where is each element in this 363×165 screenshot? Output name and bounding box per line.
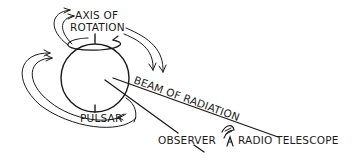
pulsar-diagram: AXIS OF ROTATION BEAM OF RADIATION PULSA… [0, 0, 363, 165]
label-radio-telescope: RADIO TELESCOPE [238, 134, 339, 146]
left-orbit-inner [32, 58, 126, 120]
rotation-arrow-icon [113, 36, 119, 42]
diagram-canvas: AXIS OF ROTATION BEAM OF RADIATION PULSA… [0, 0, 363, 165]
label-pulsar: PULSAR [80, 112, 122, 124]
beam-line-tail [194, 145, 204, 152]
pulsar-sphere [61, 44, 129, 112]
label-observer: OBSERVER [158, 134, 216, 146]
upper-right-arrow-inner [124, 34, 153, 70]
label-axis-line2: ROTATION [70, 21, 125, 33]
upper-right-arrow-outer [126, 28, 163, 72]
label-beam: BEAM OF RADIATION [132, 74, 241, 123]
radio-telescope-dish-icon [222, 126, 234, 146]
label-axis-line1: AXIS OF [75, 9, 118, 21]
